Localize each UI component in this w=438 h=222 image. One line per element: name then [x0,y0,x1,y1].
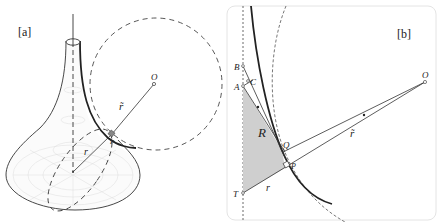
panel-b: [b] B C A R Q P T r O r̃ [227,6,436,222]
point-O-b [423,80,426,83]
point-P-marker [108,130,115,137]
point-O-marker [152,82,155,85]
angle-dot-2 [363,114,365,116]
label-B: B [234,62,240,72]
osculating-circle [90,18,222,150]
label-Q: Q [283,140,290,150]
angle-dot-1 [257,106,259,108]
label-R: R [257,125,266,140]
center-point [72,171,74,173]
label-r-b: r [266,182,270,193]
point-C [247,80,250,83]
panel-b-label: [b] [397,27,411,41]
label-O-b: O [422,70,429,80]
label-r-tilde: r̃ [119,100,125,112]
point-B [242,65,245,68]
label-P: P [109,138,115,146]
point-T [242,192,245,195]
label-O: O [151,72,158,82]
point-A [242,85,245,88]
label-C: C [250,77,257,87]
pseudosphere-figure: [a] O r̃ r P [b] B C A R [0,0,438,222]
label-P-b: P [290,162,296,171]
label-A: A [233,82,240,92]
panel-a-label: [a] [18,25,31,39]
label-r: r [84,146,88,157]
panel-a: [a] O r̃ r P [6,14,222,221]
